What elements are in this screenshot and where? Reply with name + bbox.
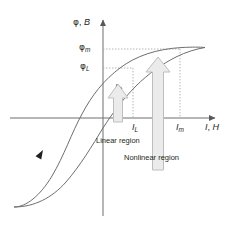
y-axis-label: φ, B [73, 18, 90, 27]
I-m-subscript: m [179, 126, 184, 133]
linear-region-label: Linear region [96, 137, 140, 145]
x-axis-label: I, H [205, 123, 219, 132]
y-tick-label-phi-m: φm [79, 43, 90, 54]
I-L-subscript: L [135, 126, 139, 133]
x-tick-label-I-L: IL [132, 123, 138, 134]
hysteresis-plot-canvas [0, 0, 243, 229]
nonlinear-region-label: Nonlinear region [124, 154, 179, 162]
curve-direction-arrow-lower-icon [36, 148, 46, 159]
y-tick-label-phi-L: φL [80, 62, 90, 73]
x-tick-label-I-m: Im [176, 123, 184, 134]
phi-m-subscript: m [85, 46, 90, 53]
hysteresis-figure: φ, B I, H φm φL IL Im Linear region Nonl… [0, 0, 243, 229]
x-axis-label-field: H [213, 122, 220, 132]
phi-L-subscript: L [86, 65, 90, 72]
y-axis-label-field: B [84, 17, 90, 27]
